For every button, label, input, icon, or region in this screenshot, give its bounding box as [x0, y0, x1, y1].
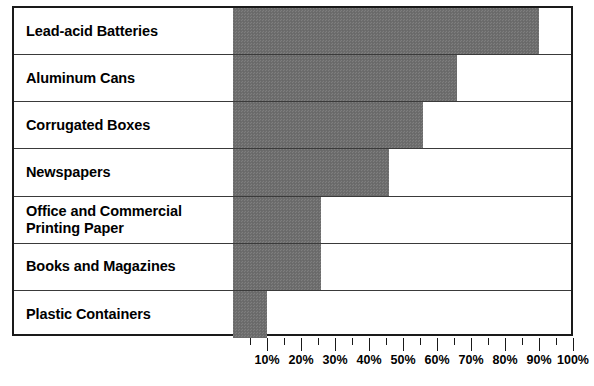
chart-plot-frame: Lead-acid BatteriesAluminum CansCorrugat…: [12, 6, 573, 336]
axis-tick-major: [539, 338, 540, 351]
table-row: Lead-acid Batteries: [14, 8, 571, 55]
axis-tick-label: 30%: [322, 353, 347, 367]
category-label: Plastic Containers: [14, 306, 233, 323]
axis-tick-major: [301, 338, 302, 351]
bar-fill: [233, 149, 389, 195]
bar-track: [233, 197, 571, 243]
category-label-line: Books and Magazines: [26, 258, 229, 275]
axis-tick-major: [505, 338, 506, 351]
axis-tick-label: 40%: [356, 353, 381, 367]
axis-tick-major: [369, 338, 370, 351]
axis-tick-major: [403, 338, 404, 351]
bar-fill: [233, 55, 457, 101]
category-label-line: Plastic Containers: [26, 306, 229, 323]
bar-track: [233, 291, 571, 338]
axis-tick-label: 20%: [288, 353, 313, 367]
bar-fill: [233, 102, 423, 148]
bar-fill: [233, 197, 321, 243]
axis-tick-label: 100%: [557, 353, 589, 367]
bar-chart: Lead-acid BatteriesAluminum CansCorrugat…: [0, 0, 594, 386]
category-label: Office and CommercialPrinting Paper: [14, 203, 233, 236]
category-label: Newspapers: [14, 164, 233, 181]
table-row: Office and CommercialPrinting Paper: [14, 197, 571, 244]
axis-tick-minor: [250, 338, 251, 345]
axis-tick-minor: [352, 338, 353, 345]
category-label: Lead-acid Batteries: [14, 23, 233, 40]
category-label-line: Printing Paper: [26, 220, 229, 237]
bar-track: [233, 8, 571, 54]
axis-tick-major: [471, 338, 472, 351]
axis-tick-label: 60%: [424, 353, 449, 367]
axis-tick-major: [267, 338, 268, 351]
bar-track: [233, 149, 571, 195]
category-label: Aluminum Cans: [14, 70, 233, 87]
axis-tick-minor: [522, 338, 523, 345]
category-label: Corrugated Boxes: [14, 117, 233, 134]
axis-tick-minor: [454, 338, 455, 345]
axis-tick-major: [437, 338, 438, 351]
bar-fill: [233, 8, 539, 54]
table-row: Corrugated Boxes: [14, 102, 571, 149]
category-label-line: Newspapers: [26, 164, 229, 181]
table-row: Plastic Containers: [14, 291, 571, 338]
axis-tick-minor: [284, 338, 285, 345]
category-label-line: Office and Commercial: [26, 203, 229, 220]
axis-tick-minor: [488, 338, 489, 345]
bar-track: [233, 102, 571, 148]
table-row: Newspapers: [14, 149, 571, 196]
bar-track: [233, 55, 571, 101]
table-row: Books and Magazines: [14, 244, 571, 291]
bar-fill: [233, 291, 267, 338]
axis-tick-label: 10%: [254, 353, 279, 367]
axis-tick-label: 90%: [526, 353, 551, 367]
bar-track: [233, 244, 571, 290]
axis-tick-major: [573, 338, 574, 351]
axis-tick-minor: [318, 338, 319, 345]
table-row: Aluminum Cans: [14, 55, 571, 102]
axis-tick-minor: [386, 338, 387, 345]
category-label: Books and Magazines: [14, 258, 233, 275]
axis-tick-minor: [420, 338, 421, 345]
axis-tick-major: [335, 338, 336, 351]
category-label-line: Aluminum Cans: [26, 70, 229, 87]
category-label-line: Corrugated Boxes: [26, 117, 229, 134]
bar-fill: [233, 244, 321, 290]
axis-tick-minor: [556, 338, 557, 345]
x-axis: 10%20%30%40%50%60%70%80%90%100%: [233, 338, 573, 384]
axis-tick-label: 50%: [390, 353, 415, 367]
axis-tick-label: 70%: [458, 353, 483, 367]
axis-tick-label: 80%: [492, 353, 517, 367]
category-label-line: Lead-acid Batteries: [26, 23, 229, 40]
